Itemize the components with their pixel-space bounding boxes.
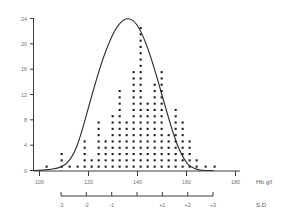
data-dot [126, 153, 128, 155]
data-dot [182, 122, 184, 124]
data-dot [140, 115, 142, 117]
data-dot [46, 166, 48, 168]
data-dot [105, 153, 107, 155]
data-dot [140, 159, 142, 161]
data-dot [161, 122, 163, 124]
data-dot [147, 115, 149, 117]
data-dot [168, 134, 170, 136]
data-dot [182, 166, 184, 168]
data-dot [112, 147, 114, 149]
y-axis: 24 20 16 12 8 4 0 [21, 16, 34, 174]
x-axis-title: Hb g/l [256, 178, 272, 185]
data-dot [175, 166, 177, 168]
y-tick-label-12: 12 [21, 92, 27, 98]
data-dot [140, 166, 142, 168]
data-dot [161, 109, 163, 111]
data-dot [147, 103, 149, 105]
data-dot [154, 128, 156, 130]
data-dot [119, 122, 121, 124]
sd-tick-label-plus2: +2 [185, 202, 191, 208]
data-dot [140, 122, 142, 124]
data-dot [98, 134, 100, 136]
data-dot [154, 134, 156, 136]
data-dot [119, 147, 121, 149]
data-dot [168, 153, 170, 155]
data-dot [182, 153, 184, 155]
data-dot [175, 147, 177, 149]
data-dot [105, 140, 107, 142]
data-dot [161, 77, 163, 79]
data-dot [119, 103, 121, 105]
data-dot [126, 147, 128, 149]
data-dot [133, 128, 135, 130]
data-dot [126, 122, 128, 124]
data-dot [161, 90, 163, 92]
data-dot [205, 166, 207, 168]
data-dot [175, 159, 177, 161]
data-dot [147, 134, 149, 136]
data-dot [126, 159, 128, 161]
data-dot [140, 84, 142, 86]
data-dot [119, 153, 121, 155]
data-dot [189, 159, 191, 161]
data-dot [154, 122, 156, 124]
data-dot [98, 122, 100, 124]
data-dot [168, 159, 170, 161]
data-dot [161, 134, 163, 136]
data-dot [133, 153, 135, 155]
data-dot [140, 103, 142, 105]
sd-axis-title: S.D [256, 201, 267, 208]
data-dot [133, 103, 135, 105]
data-dot [168, 166, 170, 168]
x-axis-hb: 100 120 140 160 180 Hb g/l [34, 171, 273, 185]
data-dot [133, 109, 135, 111]
data-dot [126, 134, 128, 136]
data-dot [168, 140, 170, 142]
data-dot [119, 115, 121, 117]
data-dot [182, 134, 184, 136]
data-dot [161, 153, 163, 155]
data-dot [140, 65, 142, 67]
data-dot [112, 166, 114, 168]
data-dot [105, 159, 107, 161]
data-dot [154, 84, 156, 86]
data-dot [147, 166, 149, 168]
data-dot [147, 122, 149, 124]
data-dot [98, 153, 100, 155]
y-tick-label-0: 0 [24, 168, 27, 174]
x-tick-label-160: 160 [182, 179, 191, 185]
data-dot [189, 140, 191, 142]
data-dot [133, 122, 135, 124]
data-dot [214, 166, 216, 168]
data-dot [140, 140, 142, 142]
data-dot [61, 166, 63, 168]
data-dot [140, 52, 142, 54]
data-dot [119, 134, 121, 136]
data-dot [91, 166, 93, 168]
data-dot [133, 96, 135, 98]
data-dot [161, 84, 163, 86]
data-dot [84, 140, 86, 142]
data-dot [161, 147, 163, 149]
data-dot [98, 140, 100, 142]
data-dot [140, 96, 142, 98]
data-dot [133, 140, 135, 142]
data-dot [175, 128, 177, 130]
data-dot [140, 147, 142, 149]
x-tick-label-180: 180 [231, 179, 240, 185]
data-dot [133, 84, 135, 86]
data-dot [133, 115, 135, 117]
data-dot [112, 159, 114, 161]
data-dot [133, 147, 135, 149]
data-dot [119, 140, 121, 142]
x-tick-label-100: 100 [35, 179, 44, 185]
sd-tick-label-plus1: +1 [159, 202, 165, 208]
data-dot [154, 153, 156, 155]
data-dot [175, 109, 177, 111]
y-tick-label-8: 8 [24, 117, 27, 123]
normal-curve-group [34, 19, 214, 171]
data-dot [161, 115, 163, 117]
data-dot [98, 147, 100, 149]
data-dot [98, 128, 100, 130]
data-dot [140, 59, 142, 61]
